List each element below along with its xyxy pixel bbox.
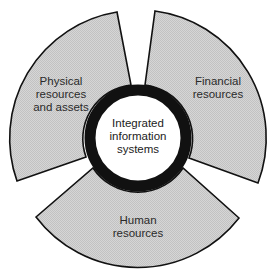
label-line: and assets: [26, 101, 96, 114]
label-line: resources: [103, 227, 173, 240]
label-line: Integrated: [103, 117, 173, 130]
label-physical-resources: Physical resources and assets: [26, 75, 96, 114]
label-human-resources: Human resources: [103, 214, 173, 240]
label-line: resources: [26, 88, 96, 101]
label-line: information: [103, 130, 173, 143]
label-financial-resources: Financial resources: [183, 75, 253, 101]
label-line: Physical: [26, 75, 96, 88]
diagram: Physical resources and assets Financial …: [0, 0, 276, 275]
label-line: systems: [103, 143, 173, 156]
label-line: resources: [183, 88, 253, 101]
hub-label-integrated-information-systems: Integrated information systems: [103, 117, 173, 156]
label-line: Financial: [183, 75, 253, 88]
label-line: Human: [103, 214, 173, 227]
